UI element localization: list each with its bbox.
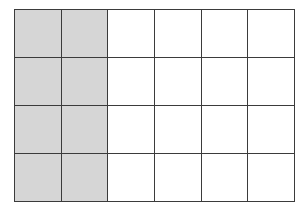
grid-cell-label: r3c5	[202, 106, 248, 153]
grid-cell-r3c2[interactable]: r3c2	[61, 106, 108, 154]
grid-cell-label: r2c5	[202, 58, 248, 105]
grid-cell-label: r3c1	[15, 106, 61, 153]
shaded-fraction-grid: r1c1r1c2r1c3r1c4r1c5r1c6r2c1r2c2r2c3r2c4…	[14, 9, 295, 202]
grid-row-row-3: r3c1r3c2r3c3r3c4r3c5r3c6	[15, 106, 295, 154]
grid-cell-label: r1c4	[155, 10, 201, 57]
grid-cell-label: r1c5	[202, 10, 248, 57]
grid-cell-label: r4c1	[15, 154, 61, 201]
grid-cell-label: r4c6	[248, 154, 294, 201]
grid-row-row-4: r4c1r4c2r4c3r4c4r4c5r4c6	[15, 154, 295, 202]
grid-cell-r4c4[interactable]: r4c4	[155, 154, 202, 202]
grid-cell-label: r1c2	[62, 10, 108, 57]
grid-cell-r1c4[interactable]: r1c4	[155, 10, 202, 58]
grid-cell-r2c6[interactable]: r2c6	[248, 58, 295, 106]
grid-cell-r2c2[interactable]: r2c2	[61, 58, 108, 106]
grid-cell-r4c1[interactable]: r4c1	[15, 154, 62, 202]
grid-cell-label: r3c3	[108, 106, 154, 153]
grid-cell-r3c3[interactable]: r3c3	[108, 106, 155, 154]
grid-cell-label: r4c5	[202, 154, 248, 201]
grid-cell-r3c5[interactable]: r3c5	[201, 106, 248, 154]
grid-cell-r3c1[interactable]: r3c1	[15, 106, 62, 154]
grid-row-row-1: r1c1r1c2r1c3r1c4r1c5r1c6	[15, 10, 295, 58]
grid-cell-r2c1[interactable]: r2c1	[15, 58, 62, 106]
grid-body: r1c1r1c2r1c3r1c4r1c5r1c6r2c1r2c2r2c3r2c4…	[15, 10, 295, 202]
grid-cell-label: r4c2	[62, 154, 108, 201]
grid-cell-label: r4c4	[155, 154, 201, 201]
grid-cell-label: r1c3	[108, 10, 154, 57]
figure-canvas: r1c1r1c2r1c3r1c4r1c5r1c6r2c1r2c2r2c3r2c4…	[0, 0, 300, 206]
grid-cell-r1c3[interactable]: r1c3	[108, 10, 155, 58]
grid-cell-label: r1c1	[15, 10, 61, 57]
grid-cell-label: r1c6	[248, 10, 294, 57]
grid-cell-label: r2c4	[155, 58, 201, 105]
grid-cell-r4c2[interactable]: r4c2	[61, 154, 108, 202]
grid-cell-label: r2c2	[62, 58, 108, 105]
grid-cell-r4c3[interactable]: r4c3	[108, 154, 155, 202]
grid-cell-label: r2c3	[108, 58, 154, 105]
grid-cell-r1c5[interactable]: r1c5	[201, 10, 248, 58]
grid-cell-label: r3c2	[62, 106, 108, 153]
grid-cell-r2c5[interactable]: r2c5	[201, 58, 248, 106]
grid-cell-r1c2[interactable]: r1c2	[61, 10, 108, 58]
grid-cell-label: r4c3	[108, 154, 154, 201]
grid-cell-r2c4[interactable]: r2c4	[155, 58, 202, 106]
grid-cell-r3c4[interactable]: r3c4	[155, 106, 202, 154]
grid-cell-label: r3c4	[155, 106, 201, 153]
grid-cell-r3c6[interactable]: r3c6	[248, 106, 295, 154]
grid-cell-label: r2c6	[248, 58, 294, 105]
grid-cell-label: r2c1	[15, 58, 61, 105]
grid-cell-r1c6[interactable]: r1c6	[248, 10, 295, 58]
grid-cell-r4c5[interactable]: r4c5	[201, 154, 248, 202]
grid-cell-r4c6[interactable]: r4c6	[248, 154, 295, 202]
grid-cell-label: r3c6	[248, 106, 294, 153]
grid-cell-r1c1[interactable]: r1c1	[15, 10, 62, 58]
grid-row-row-2: r2c1r2c2r2c3r2c4r2c5r2c6	[15, 58, 295, 106]
grid-cell-r2c3[interactable]: r2c3	[108, 58, 155, 106]
